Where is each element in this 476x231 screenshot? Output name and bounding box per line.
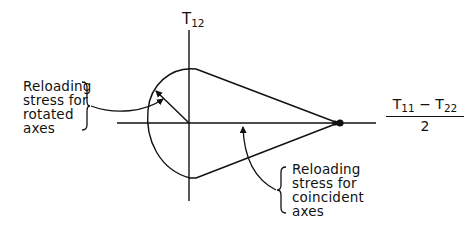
numerator-b-symbol: T <box>435 96 444 112</box>
vertical-axis-label: T12 <box>182 10 205 29</box>
numerator-a-symbol: T <box>393 96 402 112</box>
annotation-line: Reloading <box>23 79 92 93</box>
fraction-numerator: T11 − T22 <box>386 96 464 117</box>
right-brace <box>277 167 286 213</box>
numerator-b-subscript: 22 <box>444 102 457 114</box>
fraction-denominator: 2 <box>386 117 464 134</box>
annotation-line: stress for <box>23 93 92 107</box>
annotation-line: axes <box>292 204 364 218</box>
annotation-line: Reloading <box>292 162 364 176</box>
apex-dot-inner <box>332 120 337 125</box>
rotated-axes-annotation: Reloading stress for rotated axes <box>23 79 92 135</box>
vertical-axis-subscript: 12 <box>191 17 204 29</box>
rotated-axes-pointer-arrow <box>91 99 163 111</box>
coincident-axes-pointer-arrow <box>243 127 276 190</box>
vertical-axis-symbol: T <box>182 10 191 28</box>
numerator-operator: − <box>419 96 431 112</box>
annotation-line: stress for <box>292 176 364 190</box>
radial-arrow <box>156 91 189 123</box>
coincident-axes-annotation: Reloading stress for coincident axes <box>292 162 364 218</box>
annotation-line: coincident <box>292 190 364 204</box>
horizontal-axis-label: T11 − T22 2 <box>386 96 464 134</box>
annotation-line: axes <box>23 121 92 135</box>
numerator-a-subscript: 11 <box>401 102 414 114</box>
annotation-line: rotated <box>23 107 92 121</box>
